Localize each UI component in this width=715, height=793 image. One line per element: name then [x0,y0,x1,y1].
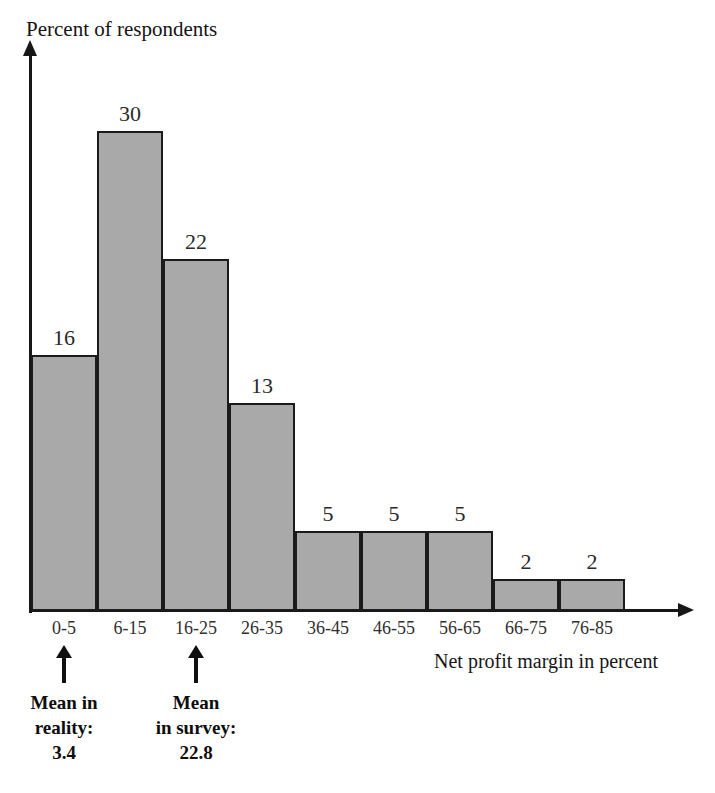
bar-value-label: 22 [163,231,229,253]
bar-value-label: 16 [31,327,97,349]
bar-value-label: 5 [361,503,427,525]
x-tick-label: 76-85 [559,618,625,640]
y-axis-title: Percent of respondents [26,18,217,41]
annotation-line-3: 22.8 [106,740,286,765]
annotation-mean-in-survey-text: Mean in survey: 22.8 [106,690,286,765]
x-tick-label: 26-35 [229,618,295,640]
bar [361,531,427,611]
bar [31,355,97,611]
bar [295,531,361,611]
bar [493,579,559,611]
x-axis-title: Net profit margin in percent [434,650,658,672]
up-arrow-shaft [62,657,66,683]
bar-value-label: 2 [559,551,625,573]
bar [163,259,229,611]
x-axis-tick-labels: 0-56-1516-2526-3536-4546-5556-6566-7576-… [31,618,625,644]
annotation-line-2: in survey: [106,715,286,740]
x-tick-label: 46-55 [361,618,427,640]
x-tick-label: 66-75 [493,618,559,640]
bar-value-label: 5 [295,503,361,525]
bar-value-label: 13 [229,375,295,397]
bar [559,579,625,611]
x-tick-label: 16-25 [163,618,229,640]
x-tick-label: 36-45 [295,618,361,640]
bar-value-label: 2 [493,551,559,573]
x-axis-arrow-icon [678,603,694,617]
bar-value-label: 5 [427,503,493,525]
bar [427,531,493,611]
histogram-figure: Percent of respondents 1630221355522 0-5… [0,0,715,793]
bar-value-label: 30 [97,103,163,125]
x-tick-label: 0-5 [31,618,97,640]
x-tick-label: 56-65 [427,618,493,640]
bar [229,403,295,611]
bar [97,131,163,611]
plot-area: 1630221355522 [31,52,625,611]
x-tick-label: 6-15 [97,618,163,640]
up-arrow-shaft [194,657,198,683]
annotation-line-1: Mean [106,690,286,715]
